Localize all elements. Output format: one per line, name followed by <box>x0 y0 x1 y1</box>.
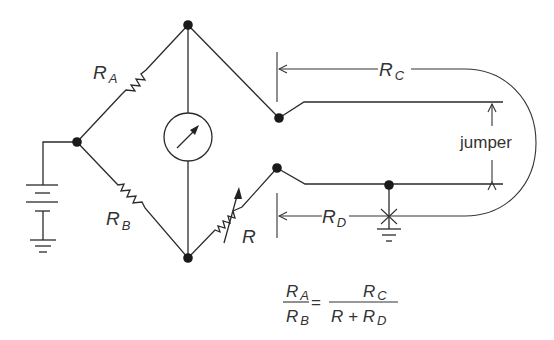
battery-icon <box>26 142 77 240</box>
svg-text:RB: RB <box>286 307 309 328</box>
label-r: R <box>242 226 256 247</box>
label-ra: RA <box>93 62 117 86</box>
galvanometer-icon <box>164 113 212 161</box>
svg-text:R + RD: R + RD <box>331 307 386 328</box>
label-rb: RB <box>106 208 131 233</box>
wire-top-right <box>188 25 279 118</box>
svg-text:RC: RC <box>363 282 387 303</box>
variable-resistor-r <box>188 168 277 258</box>
svg-text:RA: RA <box>286 282 309 303</box>
line-upper <box>279 102 503 118</box>
svg-text:=: = <box>311 293 321 312</box>
resistor-rb <box>77 142 188 258</box>
resistor-ra <box>77 25 188 142</box>
label-rd: RD <box>322 206 346 230</box>
ground-icon <box>30 240 56 252</box>
label-jumper: jumper <box>459 133 512 152</box>
balance-equation: RA RB = RC R + RD <box>283 282 398 328</box>
label-rc: RC <box>379 59 405 83</box>
bridge-circuit-diagram: RA RB R RC RD jumper RA RB = RC R + RD <box>0 0 554 340</box>
adjust-arrow-icon <box>234 187 242 199</box>
